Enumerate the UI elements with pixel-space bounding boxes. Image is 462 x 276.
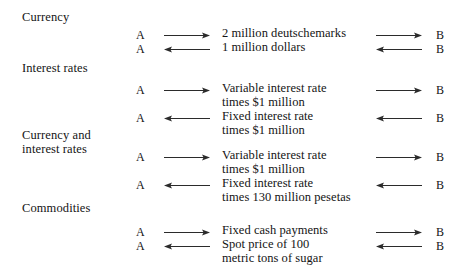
flow-text: Fixed interest rate times $1 million bbox=[222, 109, 313, 137]
arrow-right-icon bbox=[376, 153, 422, 162]
arrow-right-icon bbox=[164, 86, 210, 95]
section-label-commodities: Commodities bbox=[22, 201, 90, 215]
arrow-right-icon bbox=[164, 31, 210, 40]
section-label-currency-and-interest-rates: Currency and interest rates bbox=[22, 128, 91, 156]
arrow-right-icon bbox=[164, 153, 210, 162]
flow-text: Spot price of 100 metric tons of sugar bbox=[222, 237, 323, 265]
party-b-label: B bbox=[436, 179, 444, 191]
section-label-interest-rates: Interest rates bbox=[22, 61, 88, 75]
arrow-right-icon bbox=[164, 228, 210, 237]
arrow-left-icon bbox=[164, 45, 210, 54]
arrow-right-icon bbox=[376, 31, 422, 40]
party-a-label: A bbox=[136, 112, 145, 124]
arrow-left-icon bbox=[164, 114, 210, 123]
party-a-label: A bbox=[136, 179, 145, 191]
flow-text: Variable interest rate times $1 million bbox=[222, 148, 327, 176]
flow-text: 1 million dollars bbox=[222, 40, 306, 54]
party-a-label: A bbox=[136, 226, 145, 238]
arrow-left-icon bbox=[376, 181, 422, 190]
party-b-label: B bbox=[436, 43, 444, 55]
party-a-label: A bbox=[136, 151, 145, 163]
arrow-left-icon bbox=[164, 181, 210, 190]
flow-text: Variable interest rate times $1 million bbox=[222, 81, 327, 109]
party-b-label: B bbox=[436, 151, 444, 163]
party-b-label: B bbox=[436, 29, 444, 41]
flow-text: 2 million deutschemarks bbox=[222, 26, 346, 40]
party-b-label: B bbox=[436, 240, 444, 252]
arrow-left-icon bbox=[376, 242, 422, 251]
party-a-label: A bbox=[136, 43, 145, 55]
flow-text: Fixed cash payments bbox=[222, 223, 328, 237]
section-label-currency: Currency bbox=[22, 10, 69, 24]
party-a-label: A bbox=[136, 240, 145, 252]
party-a-label: A bbox=[136, 29, 145, 41]
swap-diagram: Currency A 2 million deutschemarks B A 1… bbox=[0, 0, 462, 276]
party-b-label: B bbox=[436, 226, 444, 238]
arrow-left-icon bbox=[376, 45, 422, 54]
party-a-label: A bbox=[136, 84, 145, 96]
party-b-label: B bbox=[436, 112, 444, 124]
arrow-left-icon bbox=[376, 114, 422, 123]
flow-text: Fixed interest rate times 130 million pe… bbox=[222, 176, 351, 204]
arrow-left-icon bbox=[164, 242, 210, 251]
party-b-label: B bbox=[436, 84, 444, 96]
arrow-right-icon bbox=[376, 228, 422, 237]
arrow-right-icon bbox=[376, 86, 422, 95]
